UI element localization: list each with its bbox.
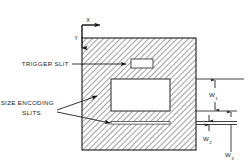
diagram-canvas: X Y TRIGGER SLIT SIZE ENCODING SLITS	[0, 0, 251, 165]
dimension-w1-label: W 1	[209, 91, 218, 101]
large-encoding-opening	[111, 79, 170, 111]
trigger-slit-label: TRIGGER SLIT	[22, 60, 69, 67]
dimension-w1-base: W	[209, 91, 215, 98]
dimension-w3-label: W 3	[225, 151, 234, 161]
dimension-w3-subscript: 3	[231, 156, 234, 161]
thin-encoding-slit	[111, 122, 170, 125]
dimension-w1-subscript: 1	[215, 96, 218, 101]
dimension-w2-base: W	[203, 135, 209, 142]
size-encoding-slits-label-line1: SIZE ENCODING	[1, 99, 54, 106]
dimension-w2-label: W 2	[203, 135, 212, 145]
size-encoding-slits-label-line2: SLITS	[22, 109, 41, 116]
axis-label-x: X	[86, 17, 90, 23]
dimension-w3-base: W	[225, 151, 231, 158]
dimension-w2-subscript: 2	[209, 140, 212, 145]
axis-label-y: Y	[74, 35, 78, 41]
trigger-slit-opening	[131, 59, 153, 68]
dimension-extension-lines	[196, 79, 244, 125]
